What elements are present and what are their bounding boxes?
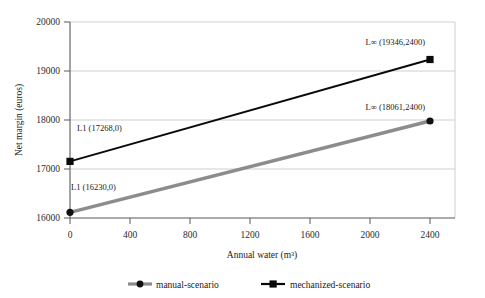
manual-scenario-marker-end [426, 117, 433, 124]
ytick-label-18000: 18000 [36, 115, 60, 125]
mechanized-scenario-marker-start [66, 158, 73, 165]
chart-container: 20000 19000 18000 17000 16000 0 400 800 … [0, 0, 485, 298]
x-axis-title: Annual water (m³) [227, 250, 297, 261]
net-margin-line-chart: 20000 19000 18000 17000 16000 0 400 800 … [0, 0, 485, 298]
legend-marker-circle-icon [137, 281, 144, 288]
ytick-label-16000: 16000 [36, 213, 60, 223]
xtick-label-2000: 2000 [361, 230, 380, 240]
legend-marker-square-icon [270, 280, 277, 287]
annotation-mechanized-end: L∞ (19346,2400) [366, 37, 426, 47]
ytick-label-20000: 20000 [36, 17, 60, 27]
xtick-label-400: 400 [123, 230, 138, 240]
xtick-label-1200: 1200 [241, 230, 260, 240]
manual-scenario-marker-start [66, 209, 73, 216]
xtick-label-1600: 1600 [301, 230, 320, 240]
annotation-manual-end: L∞ (18061,2400) [366, 102, 426, 112]
xtick-label-2400: 2400 [421, 230, 440, 240]
xtick-label-0: 0 [68, 230, 73, 240]
legend-label-manual-scenario: manual-scenario [156, 280, 219, 290]
annotation-manual-start: L1 (16230,0) [71, 182, 116, 192]
mechanized-scenario-marker-end [426, 56, 433, 63]
y-axis-title: Net margin (euros) [14, 84, 25, 156]
xtick-label-800: 800 [183, 230, 198, 240]
annotation-mechanized-start: L1 (17268,0) [77, 123, 122, 133]
legend-label-mechanized-scenario: mechanized-scenario [290, 280, 370, 290]
ytick-label-19000: 19000 [36, 66, 60, 76]
ytick-label-17000: 17000 [36, 164, 60, 174]
